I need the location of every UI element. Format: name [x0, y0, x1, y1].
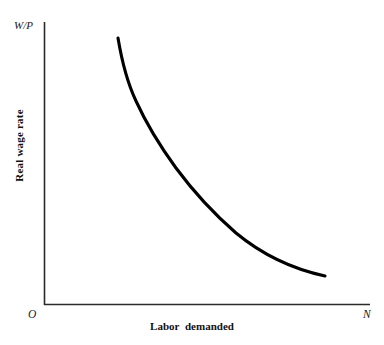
chart-canvas — [0, 0, 384, 345]
y-axis-title: Real wage rate — [14, 96, 25, 196]
x-axis-endpoint-label: N — [363, 309, 371, 321]
labor-demand-curve — [118, 38, 325, 276]
labor-demand-figure: W/P O N Real wage rate Labor demanded — [0, 0, 384, 345]
y-axis-endpoint-label: W/P — [14, 20, 33, 31]
x-axis-title: Labor demanded — [0, 321, 384, 332]
origin-label: O — [28, 309, 36, 321]
